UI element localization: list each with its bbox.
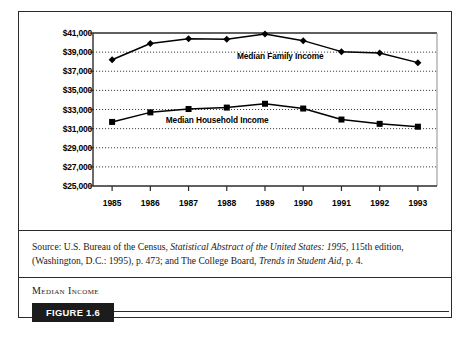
series-label-family-income: Median Family Income (237, 51, 324, 61)
x-axis-tick-labels: 198519861987198819891990199119921993Medi… (19, 12, 451, 230)
source-italic-title-2: Trends in Student Aid (259, 255, 341, 266)
caption-block: Median Income FIGURE 1.6 (19, 277, 451, 317)
x-axis-tick-label: 1989 (256, 198, 275, 208)
source-prefix: Source: U.S. Bureau of the Census, (32, 241, 170, 252)
source-suffix: , p. 4. (341, 255, 363, 266)
source-note: Source: U.S. Bureau of the Census, Stati… (19, 230, 451, 277)
x-axis-tick-label: 1993 (408, 198, 427, 208)
series-label-household-income: Median Household Income (166, 115, 269, 125)
x-axis-tick-label: 1990 (294, 198, 313, 208)
x-axis-tick-label: 1987 (179, 198, 198, 208)
x-axis-tick-label: 1992 (370, 198, 389, 208)
x-axis-tick-label: 1986 (141, 198, 160, 208)
x-axis-tick-label: 1988 (217, 198, 236, 208)
figure-caption-title: Median Income (32, 285, 99, 296)
source-italic-title-1: Statistical Abstract of the United State… (170, 241, 346, 252)
figure-frame: $41,000$39,000$37,000$35,000$33,000$31,0… (18, 11, 452, 318)
chart-block: $41,000$39,000$37,000$35,000$33,000$31,0… (19, 12, 451, 230)
x-axis-tick-label: 1991 (332, 198, 351, 208)
x-axis-tick-label: 1985 (103, 198, 122, 208)
figure-number-badge: FIGURE 1.6 (32, 303, 114, 322)
